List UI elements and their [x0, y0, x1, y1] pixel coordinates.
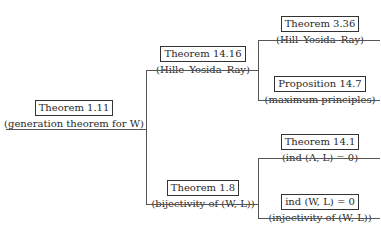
node-theorem-1-11: Theorem 1.11 (generation theorem for W)	[2, 96, 146, 131]
node-title: Theorem 14.16	[160, 46, 245, 62]
level1-spine	[146, 70, 147, 205]
node-theorem-14-1: Theorem 14.1 (ind (A, L) = 0)	[260, 130, 380, 165]
node-proposition-14-7: Proposition 14.7 (maximum principles)	[260, 72, 380, 107]
node-title: Theorem 14.1	[281, 134, 360, 150]
node-theorem-3-36: Theorem 3.36 (Hill–Yosida–Ray)	[260, 12, 380, 47]
level2-lower-spine	[258, 158, 259, 219]
connector-14-16	[146, 70, 258, 71]
connector-1-8	[146, 204, 258, 205]
root-connector	[6, 129, 146, 130]
level2-upper-spine	[258, 40, 259, 101]
connector-ind-w-l	[258, 218, 380, 219]
node-theorem-1-8: Theorem 1.8 (bijectivity of (W, L))	[148, 176, 258, 211]
node-title: Theorem 1.8	[167, 180, 239, 196]
node-theorem-14-16: Theorem 14.16 (Hille–Yosida–Ray)	[148, 42, 258, 77]
connector-14-1	[258, 158, 380, 159]
node-title: Proposition 14.7	[274, 76, 365, 92]
connector-14-7	[258, 100, 380, 101]
node-ind-w-l: ind (W, L) = 0 (injectivity of (W, L))	[260, 190, 380, 225]
connector-3-36	[258, 40, 380, 41]
node-title: Theorem 1.11	[35, 100, 114, 116]
node-title: ind (W, L) = 0	[281, 194, 359, 210]
node-title: Theorem 3.36	[281, 16, 360, 32]
